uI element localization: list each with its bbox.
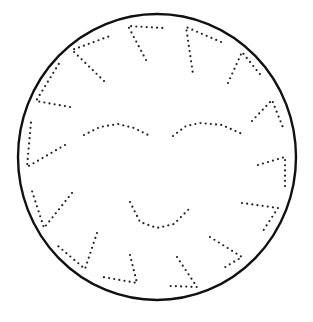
right-eye-dotted-line <box>173 123 242 136</box>
sun-face-drawing <box>0 0 313 322</box>
ray-dotted-line <box>242 203 278 234</box>
sun-face <box>84 123 242 228</box>
ray-dotted-line <box>31 188 72 228</box>
sun-outline-circle <box>18 14 296 300</box>
ray-dotted-line <box>186 27 221 74</box>
ray-dotted-line <box>258 157 285 190</box>
ray-dotted-line <box>210 237 242 269</box>
ray-dotted-line <box>170 257 197 287</box>
left-eye-dotted-line <box>84 124 148 135</box>
ray-dotted-line <box>36 62 70 107</box>
ray-dotted-line <box>27 122 65 167</box>
sun-rays <box>27 26 285 287</box>
ray-dotted-line <box>252 100 284 130</box>
ray-dotted-line <box>103 255 137 283</box>
ray-dotted-line <box>228 52 263 83</box>
ray-dotted-line <box>128 26 163 60</box>
ray-dotted-line <box>72 36 110 81</box>
mouth-dotted-line <box>130 202 190 228</box>
